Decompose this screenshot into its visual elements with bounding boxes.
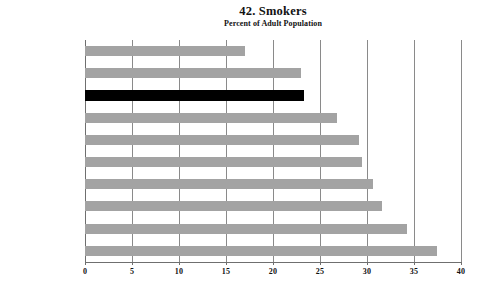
- bar-luxembourg: [85, 201, 382, 211]
- page-title: 42. Smokers: [85, 4, 461, 18]
- x-tick-0: [85, 262, 86, 265]
- chart-row: United States: [85, 84, 461, 106]
- x-tick-label-35: 35: [410, 267, 418, 276]
- chart-row: France: [85, 107, 461, 129]
- chart-row: Germany: [85, 218, 461, 240]
- chart-row: Luxembourg: [85, 195, 461, 217]
- chart-row: Greece: [85, 240, 461, 262]
- x-tick-label-15: 15: [222, 267, 230, 276]
- smokers-bar-chart: 42. Smokers Percent of Adult Population …: [0, 0, 490, 286]
- x-tick-15: [226, 262, 227, 265]
- x-tick-5: [132, 262, 133, 265]
- bar-austria: [85, 135, 359, 145]
- bar-finland: [85, 68, 301, 78]
- x-tick-25: [320, 262, 321, 265]
- x-tick-label-10: 10: [175, 267, 183, 276]
- x-tick-label-40: 40: [457, 267, 465, 276]
- x-tick-20: [273, 262, 274, 265]
- bar-denmark: [85, 157, 362, 167]
- x-tick-30: [367, 262, 368, 265]
- chart-title-block: 42. Smokers Percent of Adult Population: [85, 4, 461, 29]
- bar-greece: [85, 246, 437, 256]
- x-tick-label-20: 20: [269, 267, 277, 276]
- x-tick-label-5: 5: [130, 267, 134, 276]
- bar-france: [85, 113, 337, 123]
- chart-row: Finland: [85, 62, 461, 84]
- chart-row: Denmark: [85, 151, 461, 173]
- x-tick-label-0: 0: [83, 267, 87, 276]
- x-tick-40: [461, 262, 462, 265]
- bar-ireland: [85, 179, 373, 189]
- x-tick-label-30: 30: [363, 267, 371, 276]
- x-tick-35: [414, 262, 415, 265]
- plot-area: PortugalFinlandUnited StatesFranceAustri…: [85, 40, 461, 262]
- gridline-40: [461, 40, 462, 262]
- chart-row: Austria: [85, 129, 461, 151]
- bar-portugal: [85, 46, 245, 56]
- chart-row: Portugal: [85, 40, 461, 62]
- chart-subtitle: Percent of Adult Population: [85, 18, 461, 29]
- bar-united-states: [85, 90, 304, 101]
- bar-germany: [85, 224, 407, 234]
- x-tick-label-25: 25: [316, 267, 324, 276]
- x-tick-10: [179, 262, 180, 265]
- chart-row: Ireland: [85, 173, 461, 195]
